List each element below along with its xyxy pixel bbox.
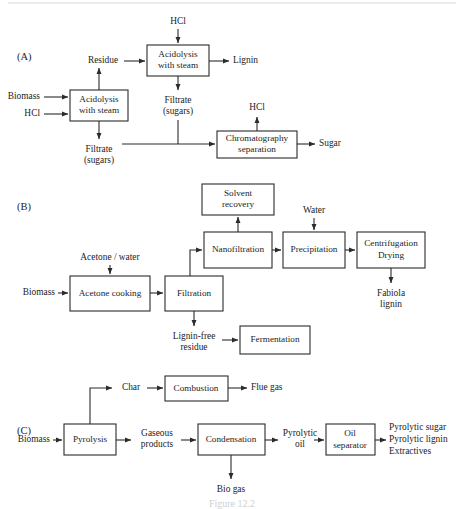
figure-caption: Figure 12.2 [209, 498, 255, 509]
node-condensation-label: Condensation [206, 434, 257, 444]
node-pyrolysis-label: Pyrolysis [73, 434, 108, 444]
label-hcl-chromatography: HCl [249, 102, 265, 112]
label-biomass-b: Biomass [23, 287, 56, 297]
node-precipitation-label: Precipitation [291, 244, 338, 254]
node-chromatography-line1: Chromatography [226, 133, 289, 143]
node-filtration-label: Filtration [177, 288, 212, 298]
label-hcl-top: HCl [170, 16, 186, 26]
label-extractives: Extractives [389, 446, 432, 456]
label-pyrolytic-oil-line1: Pyrolytic [283, 428, 317, 438]
label-pyrolytic-sugar: Pyrolytic sugar [389, 422, 447, 432]
node-nanofiltration-label: Nanofiltration [212, 244, 264, 254]
label-filtrate-mid-line2: (sugars) [163, 106, 193, 117]
node-oil-separator-line2: separator [333, 440, 367, 450]
label-lignin-free-residue-line2: residue [180, 342, 207, 352]
label-lignin: Lignin [233, 55, 258, 65]
panel-c: (C) Char Combustion Flue gas Biomass Pyr… [17, 376, 448, 494]
node-acidolysis-left-line2: with steam [79, 105, 119, 115]
process-flow-diagram: (A) HCl Acidolysis with steam Residue Li… [0, 0, 464, 509]
node-chromatography-line2: separation [238, 144, 276, 154]
node-solvent-recovery-line1: Solvent [224, 188, 253, 198]
label-filtrate-low-line1: Filtrate [85, 144, 112, 154]
label-acetone-water: Acetone / water [80, 252, 140, 262]
label-gaseous-products-line2: products [141, 439, 174, 449]
node-acetone-cooking-label: Acetone cooking [79, 288, 142, 298]
label-fabiola-lignin-line2: lignin [380, 299, 402, 309]
figure-container: (A) HCl Acidolysis with steam Residue Li… [0, 0, 464, 509]
panel-b: (B) Solvent recovery Nanofiltration Wate… [17, 184, 425, 354]
label-hcl-in: HCl [24, 108, 40, 118]
label-sugar: Sugar [319, 138, 342, 148]
node-fermentation-label: Fermentation [251, 334, 300, 344]
node-acidolysis-left-line1: Acidolysis [79, 94, 119, 104]
label-gaseous-products-line1: Gaseous [141, 428, 173, 438]
label-pyrolytic-oil-line2: oil [295, 439, 305, 449]
label-fabiola-lignin-line1: Fabiola [377, 288, 406, 298]
node-centrifugation-line1: Centrifugation [364, 238, 418, 248]
label-biomass-a: Biomass [8, 91, 41, 101]
node-centrifugation-line2: Drying [378, 250, 404, 260]
label-flue-gas: Flue gas [251, 382, 283, 392]
panel-a-letter: (A) [17, 51, 32, 63]
node-acidolysis-top-line1: Acidolysis [158, 49, 198, 59]
node-combustion-label: Combustion [174, 383, 219, 393]
label-filtrate-mid-line1: Filtrate [164, 95, 191, 105]
arrow-pyrolysis-to-char [90, 388, 112, 424]
label-water: Water [303, 205, 326, 215]
label-char: Char [122, 382, 141, 392]
panel-a: (A) HCl Acidolysis with steam Residue Li… [8, 16, 342, 166]
label-pyrolytic-lignin: Pyrolytic lignin [389, 434, 448, 444]
panel-b-letter: (B) [17, 201, 32, 213]
arrow-filtration-to-nanofiltration [190, 250, 202, 276]
node-solvent-recovery-line2: recovery [222, 199, 255, 209]
label-biomass-c: Biomass [18, 434, 51, 444]
label-lignin-free-residue-line1: Lignin-free [173, 331, 216, 341]
node-oil-separator-line1: Oil [344, 428, 356, 438]
node-acidolysis-top-line2: with steam [158, 60, 198, 70]
label-residue: Residue [88, 55, 118, 65]
label-filtrate-low-line2: (sugars) [84, 155, 114, 166]
label-bio-gas: Bio gas [217, 484, 246, 494]
